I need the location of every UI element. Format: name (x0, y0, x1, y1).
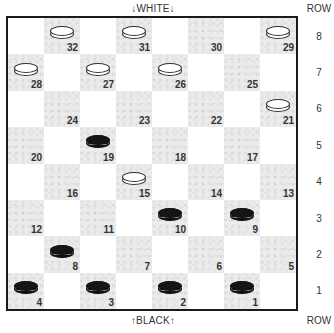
square-number: 2 (180, 298, 186, 308)
row-header-top: ROW (305, 3, 333, 14)
black-checker[interactable] (50, 245, 74, 259)
light-square (80, 18, 116, 54)
light-square (8, 18, 44, 54)
board-square-29[interactable]: 29 (260, 18, 296, 54)
light-square (8, 91, 44, 127)
light-square (44, 54, 80, 90)
row-number-1: 1 (305, 273, 333, 309)
square-number: 17 (247, 153, 258, 163)
checker-top (266, 99, 290, 109)
board-square-17[interactable]: 17 (224, 127, 260, 163)
white-checker[interactable] (122, 172, 146, 186)
light-square (188, 54, 224, 90)
board-square-6[interactable]: 6 (188, 236, 224, 272)
board-square-2[interactable]: 2 (152, 273, 188, 309)
light-square (80, 236, 116, 272)
square-number: 4 (36, 298, 42, 308)
white-checker[interactable] (266, 26, 290, 40)
white-checker[interactable] (266, 99, 290, 113)
board-square-9[interactable]: 9 (224, 200, 260, 236)
square-number: 13 (283, 189, 294, 199)
board-square-20[interactable]: 20 (8, 127, 44, 163)
board-square-12[interactable]: 12 (8, 200, 44, 236)
square-number: 1 (252, 298, 258, 308)
board-square-15[interactable]: 15 (116, 164, 152, 200)
board-square-1[interactable]: 1 (224, 273, 260, 309)
board-square-19[interactable]: 19 (80, 127, 116, 163)
white-checker[interactable] (158, 63, 182, 77)
checker-top (14, 63, 38, 73)
checker-top (122, 172, 146, 182)
checker-top (86, 135, 110, 145)
row-number-3: 3 (305, 200, 333, 236)
board-square-5[interactable]: 5 (260, 236, 296, 272)
black-checker[interactable] (14, 281, 38, 295)
square-number: 5 (288, 262, 294, 272)
black-checker[interactable] (86, 135, 110, 149)
row-number-7: 7 (305, 54, 333, 90)
checker-top (86, 63, 110, 73)
square-number: 18 (175, 153, 186, 163)
checker-top (158, 63, 182, 73)
square-number: 19 (103, 153, 114, 163)
white-checker[interactable] (14, 63, 38, 77)
square-number: 6 (216, 262, 222, 272)
board-square-21[interactable]: 21 (260, 91, 296, 127)
square-number: 12 (31, 225, 42, 235)
board-square-4[interactable]: 4 (8, 273, 44, 309)
light-square (116, 127, 152, 163)
checker-top (158, 208, 182, 218)
board-square-25[interactable]: 25 (224, 54, 260, 90)
black-checker[interactable] (230, 208, 254, 222)
row-number-4: 4 (305, 164, 333, 200)
square-number: 10 (175, 225, 186, 235)
square-number: 9 (252, 225, 258, 235)
black-checker[interactable] (230, 281, 254, 295)
square-number: 3 (108, 298, 114, 308)
row-numbers: 87654321 (305, 18, 333, 309)
black-checker[interactable] (158, 281, 182, 295)
board-square-3[interactable]: 3 (80, 273, 116, 309)
checker-top (266, 26, 290, 36)
white-checker[interactable] (50, 26, 74, 40)
board-square-13[interactable]: 13 (260, 164, 296, 200)
square-number: 8 (72, 262, 78, 272)
light-square (260, 200, 296, 236)
board-square-24[interactable]: 24 (44, 91, 80, 127)
light-square (152, 236, 188, 272)
white-checker[interactable] (86, 63, 110, 77)
board-square-28[interactable]: 28 (8, 54, 44, 90)
board-square-22[interactable]: 22 (188, 91, 224, 127)
light-square (260, 54, 296, 90)
square-number: 28 (31, 80, 42, 90)
board-square-26[interactable]: 26 (152, 54, 188, 90)
light-square (80, 91, 116, 127)
square-number: 23 (139, 116, 150, 126)
row-header-bottom: ROW (305, 315, 333, 326)
board-square-11[interactable]: 11 (80, 200, 116, 236)
board-square-31[interactable]: 31 (116, 18, 152, 54)
light-square (8, 236, 44, 272)
board-square-30[interactable]: 30 (188, 18, 224, 54)
light-square (152, 164, 188, 200)
board-square-14[interactable]: 14 (188, 164, 224, 200)
light-square (44, 200, 80, 236)
row-number-2: 2 (305, 236, 333, 272)
light-square (224, 236, 260, 272)
board-square-18[interactable]: 18 (152, 127, 188, 163)
checker-top (50, 245, 74, 255)
board-square-7[interactable]: 7 (116, 236, 152, 272)
light-square (152, 18, 188, 54)
board-square-8[interactable]: 8 (44, 236, 80, 272)
board-square-16[interactable]: 16 (44, 164, 80, 200)
board-square-32[interactable]: 32 (44, 18, 80, 54)
board-square-10[interactable]: 10 (152, 200, 188, 236)
black-checker[interactable] (86, 281, 110, 295)
white-checker[interactable] (122, 26, 146, 40)
board-square-23[interactable]: 23 (116, 91, 152, 127)
board-square-27[interactable]: 27 (80, 54, 116, 90)
square-number: 32 (67, 43, 78, 53)
light-square (260, 273, 296, 309)
black-checker[interactable] (158, 208, 182, 222)
light-square (152, 91, 188, 127)
